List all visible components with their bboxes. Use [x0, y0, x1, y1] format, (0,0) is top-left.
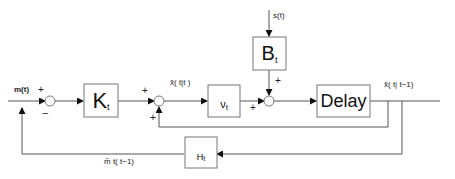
sum-junction-3	[264, 96, 274, 106]
sum2-plus-sign-bottom: +	[150, 113, 156, 123]
sum3-plus-sign-top: +	[275, 76, 281, 86]
nu-subscript: t	[226, 103, 228, 112]
k-label: K	[92, 88, 107, 114]
h-subscript: t	[203, 155, 205, 162]
sum-junction-2	[154, 96, 164, 106]
nu-block: νt	[208, 85, 240, 117]
sum1-plus-sign: +	[38, 85, 44, 95]
block-diagram: Kt νt Bt Delay Ht m(t) s(t) x̂( t|t ) x̂…	[0, 0, 455, 179]
prediction-signal-label: x̂( t| t−1)	[384, 81, 413, 89]
sum1-minus-sign: −	[42, 108, 48, 119]
delay-block: Delay	[317, 85, 370, 117]
sum-junction-1	[45, 96, 55, 106]
sum2-plus-sign-top: +	[142, 86, 148, 96]
sum3-plus-sign-left: +	[250, 103, 256, 113]
estimate-signal-label: x̂( t|t )	[170, 79, 190, 87]
b-subscript: t	[275, 55, 278, 65]
input-signal-label: m(t)	[14, 86, 29, 94]
disturbance-signal-label: s(t)	[273, 12, 285, 20]
feedback-signal-label: m̂ t( t−1)	[104, 158, 134, 166]
delay-label: Delay	[320, 91, 366, 112]
b-block: Bt	[253, 37, 286, 70]
b-label: B	[262, 42, 275, 65]
h-block: Ht	[185, 137, 217, 168]
k-subscript: t	[107, 102, 110, 112]
k-block: Kt	[84, 84, 118, 117]
